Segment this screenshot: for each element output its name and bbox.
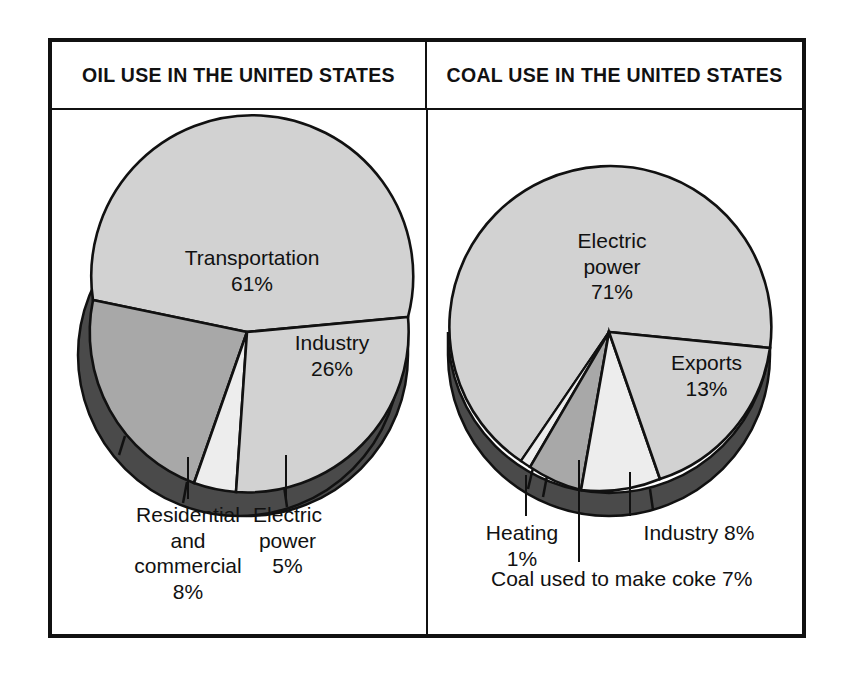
oil-label-electric-power: Electric power 5% [230, 502, 345, 579]
coal-label-heating: Heating 1% [457, 520, 587, 571]
panels-container: Transportation 61% Industry 26% Resident… [52, 110, 802, 634]
figure-root: OIL USE IN THE UNITED STATES COAL USE IN… [0, 0, 846, 677]
coal-label-exports: Exports 13% [644, 350, 769, 401]
header-cell-oil: OIL USE IN THE UNITED STATES [52, 42, 427, 108]
coal-label-coke: Coal used to make coke 7% [491, 566, 691, 592]
oil-label-industry: Industry 26% [267, 330, 397, 381]
oil-slice-transportation [91, 115, 413, 332]
panel-title-coal: COAL USE IN THE UNITED STATES [447, 64, 783, 87]
panel-oil: Transportation 61% Industry 26% Resident… [52, 110, 429, 634]
coal-label-electric-power: Electric power 71% [547, 228, 677, 305]
panel-coal: Electric power 71% Exports 13% Heating 1… [429, 110, 806, 634]
panel-title-oil: OIL USE IN THE UNITED STATES [82, 64, 395, 87]
coal-label-industry: Industry 8% [619, 520, 779, 546]
header-cell-coal: COAL USE IN THE UNITED STATES [427, 42, 802, 108]
figure-frame: OIL USE IN THE UNITED STATES COAL USE IN… [48, 38, 806, 638]
header-row: OIL USE IN THE UNITED STATES COAL USE IN… [52, 42, 802, 108]
oil-label-transportation: Transportation 61% [147, 245, 357, 296]
